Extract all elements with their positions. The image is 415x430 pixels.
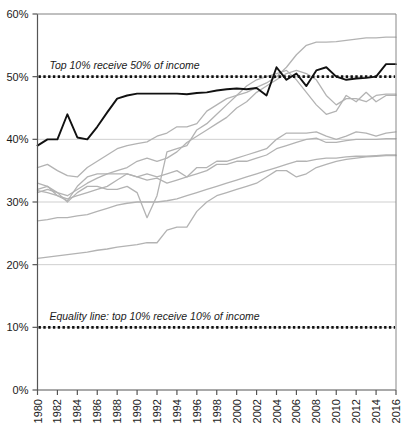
y-tick-label: 0% [13, 384, 29, 396]
x-tick-label: 2000 [231, 399, 243, 423]
x-tick-label: 2010 [330, 399, 342, 423]
annotation-label: Equality line: top 10% receive 10% of in… [49, 310, 259, 322]
annotation-label: Top 10% receive 50% of income [49, 59, 199, 71]
income-share-chart: 0%10%20%30%40%50%60% 1980198219841986198… [0, 0, 415, 430]
x-tick-label: 2004 [271, 399, 283, 423]
x-tick-label: 2012 [350, 399, 362, 423]
x-tick-label: 1992 [151, 399, 163, 423]
y-tick-label: 50% [6, 71, 28, 83]
x-tick-label: 2006 [290, 399, 302, 423]
x-tick-label: 1990 [131, 399, 143, 423]
y-tick-label: 10% [6, 321, 28, 333]
x-tick-label: 1996 [191, 399, 203, 423]
x-tick-label: 2016 [390, 399, 402, 423]
x-tick-label: 1984 [71, 399, 83, 423]
x-tick-label: 1986 [91, 399, 103, 423]
x-tick-label: 1998 [211, 399, 223, 423]
x-tick-label: 2008 [310, 399, 322, 423]
y-tick-label: 30% [6, 196, 28, 208]
y-tick-label: 40% [6, 133, 28, 145]
x-tick-label: 1980 [32, 399, 44, 423]
x-tick-label: 2014 [370, 399, 382, 423]
x-tick-label: 1982 [51, 399, 63, 423]
chart-canvas: 0%10%20%30%40%50%60% 1980198219841986198… [0, 0, 415, 430]
x-tick-label: 1988 [111, 399, 123, 423]
x-tick-label: 2002 [251, 399, 263, 423]
y-tick-label: 20% [6, 259, 28, 271]
y-tick-label: 60% [6, 8, 28, 20]
x-tick-label: 1994 [171, 399, 183, 423]
